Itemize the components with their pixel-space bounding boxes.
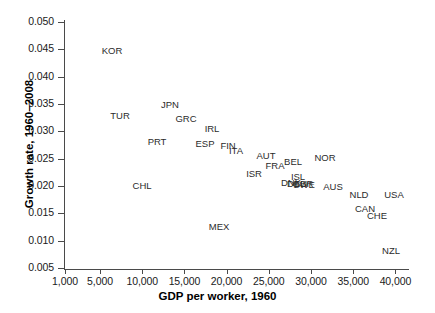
data-point-label: NLD <box>350 189 369 200</box>
data-point-label: FRA <box>266 160 285 171</box>
data-point-label: AUS <box>323 181 342 192</box>
data-point-label: GRC <box>176 113 197 124</box>
x-axis-line <box>64 269 409 270</box>
x-tick-label: 5,000 <box>87 275 113 287</box>
x-tick <box>100 269 101 274</box>
data-point-label: NOR <box>315 152 336 163</box>
y-tick <box>58 241 64 242</box>
y-tick <box>58 49 64 50</box>
data-point-label: CHE <box>367 210 387 221</box>
data-point-label: ITA <box>229 145 243 156</box>
y-tick <box>58 104 64 105</box>
x-tick-label: 35,000 <box>337 275 369 287</box>
y-axis-title: Growth rate, 1960–2008 <box>23 19 35 269</box>
x-axis-title: GDP per worker, 1960 <box>0 290 435 302</box>
x-tick-label: 1,000 <box>52 275 78 287</box>
x-tick-label: 30,000 <box>295 275 327 287</box>
x-tick <box>269 269 270 274</box>
x-tick <box>311 269 312 274</box>
data-point-label: JPN <box>161 99 179 110</box>
y-axis-line <box>64 20 65 270</box>
data-point-label: MEX <box>209 221 229 232</box>
data-point-label: NZL <box>382 245 400 256</box>
data-point-label: USA <box>384 189 403 200</box>
x-tick-label: 25,000 <box>253 275 285 287</box>
x-tick-label: 40,000 <box>380 275 412 287</box>
x-tick-label: 10,000 <box>126 275 158 287</box>
scatter-plot-figure: 0.0050.0100.0150.0200.0250.0300.0350.040… <box>0 0 435 313</box>
x-tick <box>142 269 143 274</box>
x-tick-label: 20,000 <box>211 275 243 287</box>
data-point-label: BEL <box>284 156 302 167</box>
data-point-label: SWE <box>293 179 315 190</box>
data-point-label: TUR <box>110 110 129 121</box>
y-tick <box>58 77 64 78</box>
y-tick <box>58 213 64 214</box>
data-point-label: CHL <box>133 180 152 191</box>
data-point-label: KOR <box>102 45 122 56</box>
y-tick <box>58 159 64 160</box>
y-tick <box>58 186 64 187</box>
x-tick <box>184 269 185 274</box>
data-point-label: IRL <box>205 123 220 134</box>
y-tick <box>58 268 64 269</box>
y-tick <box>58 131 64 132</box>
x-tick <box>227 269 228 274</box>
x-tick <box>353 269 354 274</box>
data-point-label: ISR <box>246 168 262 179</box>
data-point-label: PRT <box>148 136 167 147</box>
x-tick <box>395 269 396 274</box>
data-point-label: ESP <box>196 138 215 149</box>
x-tick <box>65 269 66 274</box>
x-tick-label: 15,000 <box>169 275 201 287</box>
y-tick <box>58 22 64 23</box>
